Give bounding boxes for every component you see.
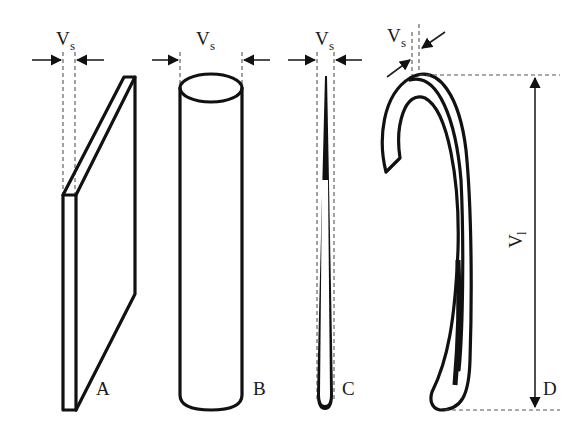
- figure-d-label: D: [543, 378, 557, 399]
- figure-b-vs-symbol: V: [196, 28, 210, 49]
- figure-c-vs-subscript: s: [329, 38, 334, 53]
- figure-d-curved-rod: V s V l D: [382, 24, 560, 410]
- figure-b-label: B: [253, 378, 266, 399]
- figure-c-needle: V s C: [288, 28, 362, 410]
- figure-b-width-dimension: V s: [152, 28, 270, 88]
- figure-a-plate: V s A: [32, 28, 135, 410]
- figure-a-width-dimension: V s: [32, 28, 104, 195]
- figure-c-vs-symbol: V: [315, 28, 329, 49]
- figure-b-cylinder: V s B: [152, 28, 270, 410]
- figure-a-vs-symbol: V: [56, 28, 70, 49]
- figure-c-label: C: [342, 378, 355, 399]
- figure-a-vs-subscript: s: [70, 38, 75, 53]
- figure-d-vl-symbol: V: [505, 234, 526, 248]
- figure-b-vs-subscript: s: [210, 38, 215, 53]
- figure-d-vs-subscript: s: [401, 35, 406, 50]
- figure-d-vs-symbol: V: [387, 25, 401, 46]
- particle-shape-diagram: V s A V s B V s C: [0, 0, 586, 435]
- figure-d-vl-subscript: l: [514, 231, 529, 235]
- figure-d-length-dimension: V l: [419, 75, 560, 410]
- figure-a-label: A: [96, 378, 110, 399]
- figure-d-width-dimension: V s: [387, 24, 445, 77]
